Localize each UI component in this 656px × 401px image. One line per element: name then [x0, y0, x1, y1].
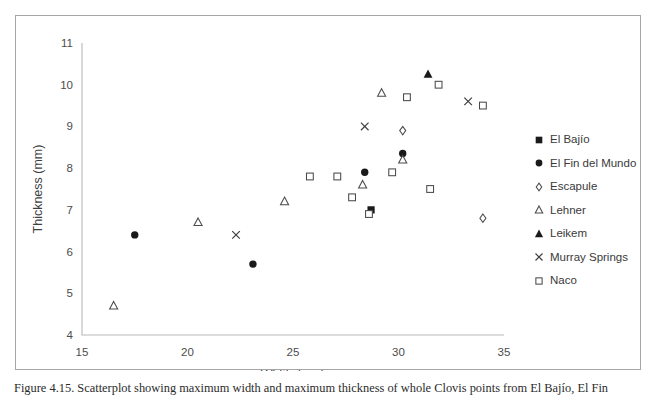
legend-item[interactable]: Escapule	[532, 175, 656, 199]
legend-item[interactable]: El Fin del Mundo	[532, 152, 656, 176]
marker-open-triangle	[194, 218, 202, 226]
y-tick-label: 8	[67, 162, 73, 174]
series-lehner	[110, 89, 407, 309]
y-tick-label: 5	[67, 287, 73, 299]
marker-open-triangle	[359, 180, 367, 188]
x-tick-label: 15	[76, 346, 89, 358]
marker-open-square	[334, 173, 341, 180]
y-tick-label: 7	[67, 204, 73, 216]
marker-cross	[361, 123, 369, 131]
y-tick-label: 10	[60, 79, 73, 91]
legend-label: Murray Springs	[550, 252, 628, 264]
y-tick-label: 11	[61, 37, 73, 49]
legend-label: Leikem	[550, 228, 587, 240]
marker-filled-circle	[536, 160, 543, 167]
marker-open-triangle	[281, 197, 289, 205]
series-leikem	[424, 69, 433, 77]
marker-open-diamond	[400, 126, 406, 134]
marker-cross	[536, 254, 543, 261]
x-tick-label: 30	[392, 346, 405, 358]
legend-marker-open-diamond-icon	[532, 180, 546, 194]
x-tick-label: 35	[498, 346, 511, 358]
x-tick-label: 20	[181, 346, 194, 358]
marker-open-square	[536, 278, 542, 284]
marker-filled-circle	[249, 260, 256, 267]
series-escapule	[400, 126, 486, 222]
figure-frame: 45678910111520253035Width (mm)Thickness …	[15, 15, 641, 370]
marker-open-square	[306, 173, 313, 180]
marker-open-diamond	[480, 214, 486, 222]
y-tick-label: 9	[67, 120, 73, 132]
legend-label: El Fin del Mundo	[550, 158, 636, 170]
legend-label: Naco	[550, 275, 577, 287]
marker-filled-square	[536, 136, 543, 143]
legend-marker-open-square-icon	[532, 274, 546, 288]
series-naco	[306, 81, 486, 217]
marker-open-square	[480, 102, 487, 109]
chart-legend: El BajíoEl Fin del MundoEscapuleLehnerLe…	[532, 128, 656, 293]
legend-item[interactable]: Leikem	[532, 222, 656, 246]
y-tick-label: 4	[67, 329, 74, 341]
legend-marker-filled-square-icon	[532, 133, 546, 147]
legend-item[interactable]: Lehner	[532, 199, 656, 223]
y-tick-label: 6	[67, 246, 73, 258]
series-el-fin-del-mundo	[131, 150, 406, 268]
y-axis-title: Thickness (mm)	[31, 145, 45, 234]
marker-open-triangle	[399, 155, 407, 163]
marker-cross	[464, 98, 472, 106]
marker-open-diamond	[536, 183, 542, 191]
marker-open-square	[435, 81, 442, 88]
x-axis-title: Width (mm)	[261, 368, 326, 371]
marker-filled-circle	[361, 169, 368, 176]
marker-open-square	[427, 186, 434, 193]
marker-filled-triangle	[535, 229, 543, 237]
marker-open-square	[389, 169, 396, 176]
figure-caption: Figure 4.15. Scatterplot showing maximum…	[14, 380, 654, 401]
marker-open-square	[366, 211, 373, 218]
legend-marker-filled-triangle-icon	[532, 227, 546, 241]
legend-item[interactable]: El Bajío	[532, 128, 656, 152]
marker-open-square	[404, 94, 411, 101]
series-murray-springs	[232, 98, 472, 239]
legend-label: Escapule	[550, 181, 597, 193]
legend-item[interactable]: Murray Springs	[532, 246, 656, 270]
legend-marker-filled-circle-icon	[532, 156, 546, 170]
legend-label: Lehner	[550, 205, 586, 217]
legend-label: El Bajío	[550, 134, 590, 146]
legend-item[interactable]: Naco	[532, 269, 656, 293]
marker-cross	[232, 231, 240, 239]
marker-filled-triangle	[424, 69, 433, 77]
marker-open-triangle	[110, 301, 118, 309]
marker-filled-circle	[131, 231, 138, 238]
marker-open-triangle	[378, 89, 386, 97]
legend-marker-open-triangle-icon	[532, 203, 546, 217]
legend-marker-cross-icon	[532, 250, 546, 264]
marker-open-triangle	[535, 206, 542, 213]
marker-open-square	[349, 194, 356, 201]
x-tick-label: 25	[287, 346, 300, 358]
